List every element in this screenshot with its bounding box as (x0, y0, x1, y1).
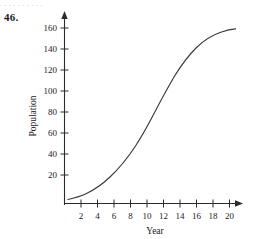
x-tick-label-6: 6 (112, 211, 117, 221)
y-tick-label-40: 40 (48, 149, 58, 159)
y-tick-label-120: 120 (44, 65, 58, 75)
y-axis-tick-labels: 20 40 60 80 100 120 140 160 (44, 23, 58, 180)
x-tick-label-16: 16 (192, 211, 202, 221)
x-tick-label-18: 18 (209, 211, 219, 221)
y-tick-label-20: 20 (48, 170, 58, 180)
y-tick-label-60: 60 (48, 128, 58, 138)
population-curve (68, 29, 236, 200)
x-axis-arrowhead (235, 200, 243, 206)
population-growth-chart: 20 40 60 80 100 120 140 160 (0, 0, 256, 239)
y-tick-label-140: 140 (44, 44, 58, 54)
y-tick-label-80: 80 (48, 107, 58, 117)
x-tick-label-12: 12 (159, 211, 168, 221)
figure-page: . . . . . . . . . . 46. (0, 0, 256, 239)
y-tick-label-160: 160 (44, 23, 58, 33)
x-tick-label-14: 14 (176, 211, 186, 221)
x-tick-label-4: 4 (95, 211, 100, 221)
x-axis-title: Year (146, 226, 164, 236)
x-tick-label-10: 10 (143, 211, 153, 221)
x-axis-tick-labels: 2 4 6 8 10 12 14 16 18 20 (79, 211, 235, 221)
y-axis-title: Population (28, 95, 38, 136)
y-axis-arrowhead (61, 11, 67, 19)
y-tick-label-100: 100 (44, 86, 58, 96)
x-tick-label-2: 2 (79, 211, 84, 221)
x-tick-label-8: 8 (128, 211, 133, 221)
x-tick-label-20: 20 (225, 211, 235, 221)
